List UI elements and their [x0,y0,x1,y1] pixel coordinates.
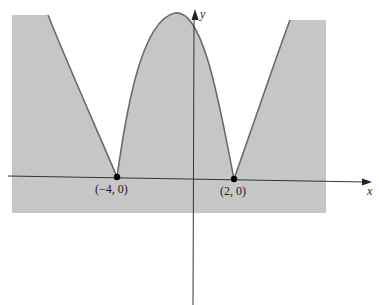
x-axis-label: x [366,184,373,198]
point-right-label: (2, 0) [220,184,246,198]
y-axis-label: y [199,7,206,21]
function-graph: x y (−4, 0) (2, 0) [0,0,379,305]
point-left [114,174,120,180]
point-right [231,176,237,182]
y-axis-arrow-icon [192,9,199,20]
point-left-label: (−4, 0) [95,182,128,196]
